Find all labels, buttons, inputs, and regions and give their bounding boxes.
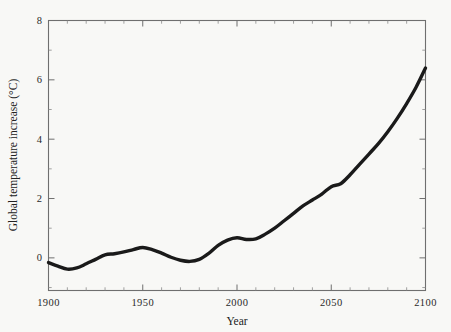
y-tick-label: 6 [37,74,43,85]
y-axis-title: Global temperature increase (°C) [7,79,20,232]
y-tick-label: 0 [37,252,43,263]
tick-labels: 1900195020002050210002468 [37,15,437,307]
y-tick-label: 2 [37,193,43,204]
x-tick-label: 2050 [320,297,343,308]
y-tick-label: 8 [37,15,43,26]
figure-container: 1900195020002050210002468 Year Global te… [0,0,451,332]
x-tick-label: 1900 [37,297,60,308]
line-chart: 1900195020002050210002468 Year Global te… [0,0,451,332]
x-tick-label: 1950 [131,297,154,308]
x-axis-title: Year [226,315,247,327]
x-tick-label: 2000 [226,297,249,308]
data-series-line [49,68,426,269]
y-tick-label: 4 [37,134,43,145]
series-global-temperature-increase [49,68,426,269]
x-tick-label: 2100 [414,297,437,308]
